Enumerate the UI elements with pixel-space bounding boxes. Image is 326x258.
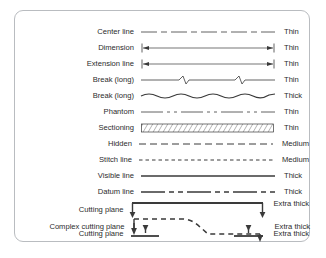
line-weight-label: Thin: [277, 76, 299, 84]
table-row: Break (long) Thin: [15, 73, 309, 87]
line-sample-cutting-complex: [130, 210, 268, 244]
line-weight-label: Medium: [275, 140, 309, 148]
line-sample-break-long-thin: [139, 73, 277, 87]
line-name-label: Datum line: [15, 188, 139, 196]
table-row: Phantom Thin: [15, 105, 309, 119]
table-row: Datum line Thick: [15, 185, 309, 199]
line-name-label: Dimension: [15, 44, 139, 52]
table-row: Complex cutting plane Extra thick: [14, 210, 310, 244]
table-row: Sectioning Thin: [15, 121, 309, 135]
line-sample-extension: [139, 57, 277, 71]
line-weight-label: Thick: [277, 172, 302, 180]
line-weight-label: Extra thick: [267, 200, 309, 208]
line-weight-label: Medium: [275, 156, 309, 164]
line-weight-label: Extra thick: [268, 223, 310, 231]
line-name-label: Break (long): [15, 92, 139, 100]
line-sample-sectioning: [139, 121, 277, 135]
line-sample-phantom: [139, 105, 277, 119]
line-weight-label: Thin: [277, 108, 299, 116]
table-row: Center line Thin: [15, 25, 309, 39]
line-weight-label: Thin: [277, 44, 299, 52]
line-sample-hidden: [137, 137, 275, 151]
line-type-reference-panel: Center line Thin Dimension Thin Extensio…: [14, 10, 310, 242]
line-name-label: Stitch line: [15, 156, 137, 164]
line-sample-visible: [139, 169, 277, 183]
table-row: Break (long) Thick: [15, 89, 309, 103]
line-weight-label: Thin: [277, 28, 299, 36]
line-name-label: Hidden: [15, 140, 137, 148]
line-name-label: Center line: [15, 28, 139, 36]
line-sample-center: [139, 25, 277, 39]
table-row: Dimension Thin: [15, 41, 309, 55]
line-name-label: Break (long): [15, 76, 139, 84]
line-name-label: Complex cutting plane: [14, 223, 130, 231]
table-row: Hidden Medium: [15, 137, 309, 151]
line-sample-break-wavy: [139, 89, 277, 103]
line-name-label: Visible line: [15, 172, 139, 180]
line-name-label: Sectioning: [15, 124, 139, 132]
line-sample-dimension: [139, 41, 277, 55]
line-weight-label: Thick: [277, 92, 302, 100]
table-row: Extension line Thin: [15, 57, 309, 71]
table-row: Visible line Thick: [15, 169, 309, 183]
table-row: Stitch line Medium: [15, 153, 309, 167]
line-weight-label: Thin: [277, 60, 299, 68]
line-sample-datum: [139, 185, 277, 199]
line-weight-label: Thick: [277, 188, 302, 196]
line-sample-stitch: [137, 153, 275, 167]
line-name-label: Extension line: [15, 60, 139, 68]
line-name-label: Phantom: [15, 108, 139, 116]
line-weight-label: Thin: [277, 124, 299, 132]
